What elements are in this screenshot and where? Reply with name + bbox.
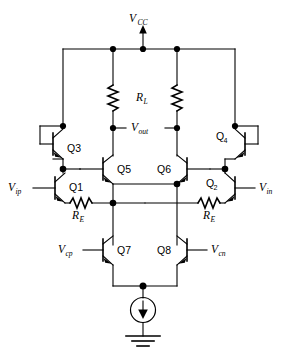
q6-collector-lead <box>177 155 187 163</box>
load-resistor-left <box>108 85 118 128</box>
re-right-label-subscript: E <box>210 215 216 224</box>
q3-emitter-arrow <box>54 152 62 158</box>
load-resistor-right <box>172 85 182 128</box>
rl-left-zigzag <box>108 85 118 111</box>
q6-label: Q6 <box>157 163 171 175</box>
vcc-rail-group <box>63 25 235 126</box>
q5-label: Q5 <box>117 163 131 175</box>
q5-collector-lead <box>103 155 113 163</box>
vip-label-group: V ip <box>8 181 22 196</box>
vin-label-subscript: in <box>267 187 273 196</box>
rl-label: R <box>135 91 143 103</box>
q1-emitter-arrow <box>56 196 64 202</box>
q5-emitter-arrow <box>104 177 112 183</box>
re-left-zigzag <box>70 198 92 208</box>
q3-label: Q3 <box>67 142 81 154</box>
transistor-q8: Q8 <box>143 236 207 286</box>
node-right-inner-bus <box>222 166 229 173</box>
schematic-canvas: V CC R L V out <box>0 0 285 357</box>
tail-current-source <box>131 283 156 337</box>
node-q4-collector <box>232 123 238 129</box>
node-rail-center <box>140 46 146 52</box>
vcc-label-subscript: CC <box>138 18 149 27</box>
q2-collector-lead <box>225 173 235 182</box>
vcp-label-group: V cp <box>58 243 73 258</box>
vcn-label-group: V cn <box>211 243 226 258</box>
right-inner-bus <box>53 159 235 173</box>
q2-emitter-arrow <box>226 196 234 202</box>
vout-group: V out <box>110 121 180 156</box>
transistor-q4: Q 4 <box>216 123 258 159</box>
q1-label: Q1 <box>69 181 83 193</box>
transistor-q1: Q1 <box>33 173 83 203</box>
transistor-q3: Q3 <box>40 123 81 159</box>
q6-emitter-arrow <box>178 177 186 183</box>
node-q3-collector <box>60 123 66 129</box>
current-source-arrow-head <box>138 310 148 320</box>
q1-collector-lead <box>55 173 65 182</box>
q4-collector-lead <box>235 129 245 138</box>
left-inner-bus <box>60 159 80 173</box>
vcn-label-subscript: cn <box>219 249 226 258</box>
node-rail-right <box>174 46 180 52</box>
node-left-inner-bus <box>60 166 67 173</box>
vcp-label-subscript: cp <box>66 249 73 258</box>
vip-label-subscript: ip <box>16 187 22 196</box>
transistor-q2: Q 2 <box>206 173 255 203</box>
q8-label: Q8 <box>157 244 171 256</box>
vin-label-group: V in <box>259 181 273 196</box>
rl-right-zigzag <box>172 85 182 111</box>
re-right-zigzag <box>198 198 220 208</box>
transistor-q6: Q6 <box>157 155 210 187</box>
vout-label-subscript: out <box>139 127 150 136</box>
rl-label-group: R L <box>135 91 148 106</box>
vcc-label-group: V CC <box>129 12 149 27</box>
circuit-schematic-figure: V CC R L V out <box>0 0 285 357</box>
q2-label-subscript: 2 <box>214 183 218 192</box>
re-left-label-subscript: E <box>79 215 85 224</box>
q3-collector-lead <box>53 129 63 138</box>
emitter-rail-group: R E R E <box>65 184 225 245</box>
re-left-label: R <box>71 209 79 221</box>
q4-emitter-arrow <box>236 152 244 158</box>
rl-label-subscript: L <box>143 97 148 106</box>
node-rail-left <box>110 46 116 52</box>
q7-collector-lead <box>103 236 113 244</box>
q7-label: Q7 <box>117 244 131 256</box>
q8-collector-lead <box>177 236 187 244</box>
q4-label-subscript: 4 <box>224 136 228 145</box>
re-right-label: R <box>202 209 210 221</box>
ground-symbol <box>126 336 160 346</box>
